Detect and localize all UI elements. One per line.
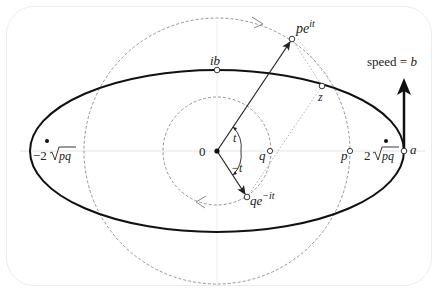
point-q	[267, 148, 272, 153]
svg-text:pq: pq	[58, 149, 71, 163]
label-z: z	[317, 90, 323, 104]
point-z	[319, 83, 325, 89]
point-pe-it	[289, 36, 295, 42]
focus-right-point	[384, 139, 388, 143]
point-qe-neg-it	[244, 194, 250, 200]
svg-text:−2: −2	[33, 148, 47, 163]
svg-text:pq: pq	[381, 149, 394, 163]
point-p	[347, 148, 352, 153]
label-pe-it: peit	[295, 18, 315, 36]
origin-point	[214, 148, 219, 153]
vector-pe-it	[217, 42, 290, 151]
label-focus-right: 2 pq	[364, 147, 399, 163]
outer-circle-direction-icon	[252, 17, 263, 28]
inner-circle-direction-icon	[196, 196, 206, 208]
focus-left-point	[45, 139, 49, 143]
label-t: t	[233, 131, 237, 145]
parallelogram-line-2	[247, 86, 322, 197]
parallelogram-line-1	[292, 39, 322, 86]
label-speed: speed = b	[367, 54, 417, 69]
point-a	[401, 148, 407, 154]
label-origin: 0	[199, 144, 206, 159]
label-focus-left: −2 pq	[33, 147, 76, 163]
svg-text:2: 2	[364, 148, 371, 163]
label-neg-t: −t	[231, 161, 243, 175]
label-qe-neg-it: qe−it	[250, 190, 275, 208]
label-q: q	[259, 148, 266, 163]
point-ib	[214, 67, 220, 73]
label-ib: ib	[210, 53, 221, 68]
label-a: a	[410, 142, 417, 157]
ellipse-diagram: ib peit z 0 t −t q p qe−it a −2 pq 2 pq …	[0, 0, 440, 293]
label-p: p	[340, 148, 348, 163]
